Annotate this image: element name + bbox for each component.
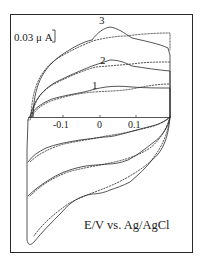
- x-axis-label: E/V vs. Ag/AgCl: [84, 218, 170, 233]
- curve-label-2: 2: [100, 54, 106, 66]
- scale-bar-label: 0.03 μ A: [14, 31, 53, 43]
- x-tick-label: -0.1: [53, 119, 69, 130]
- x-tick-label: 0: [97, 119, 102, 130]
- curve-label-1: 1: [92, 79, 98, 91]
- x-tick-label: 0.1: [128, 119, 141, 130]
- curve-label-3: 3: [99, 14, 105, 26]
- plot-frame: [11, 15, 193, 253]
- curve-3-solid: [27, 27, 170, 244]
